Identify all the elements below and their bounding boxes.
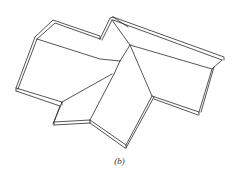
bottom-right-lip-inner bbox=[90, 123, 125, 148]
top-right-lip-inner bbox=[113, 20, 222, 60]
right-wall-inner bbox=[201, 67, 214, 112]
bottom-right-lip bbox=[90, 120, 126, 148]
left-bottom-lip bbox=[16, 88, 62, 105]
left-bottom-lip-inner bbox=[16, 91, 60, 106]
right-ridge-lower-inner bbox=[126, 97, 154, 148]
center-diagonal bbox=[114, 61, 120, 74]
center-apex-inner bbox=[102, 20, 112, 40]
center-apex-outer bbox=[100, 17, 113, 39]
bottom-lip bbox=[54, 120, 90, 123]
roof-structure-diagram bbox=[0, 0, 239, 176]
left-wall-outer bbox=[16, 37, 35, 91]
top-right-fold bbox=[130, 45, 222, 69]
bottom-lip-inner bbox=[54, 123, 90, 125]
center-valley bbox=[90, 74, 114, 120]
right-bottom-lip bbox=[152, 96, 199, 115]
center-ridge bbox=[130, 45, 152, 96]
left-wall-inner bbox=[18, 39, 37, 89]
right-bottom-lip-inner bbox=[154, 99, 198, 115]
figure-caption: (b) bbox=[0, 156, 239, 166]
right-wall-outer bbox=[199, 69, 212, 112]
left-step-inner bbox=[53, 106, 60, 124]
top-left-lip-outer bbox=[35, 20, 100, 39]
left-valley bbox=[62, 74, 112, 102]
top-left-fold bbox=[37, 39, 120, 61]
line-drawing bbox=[0, 0, 239, 176]
top-right-lip-outer bbox=[113, 17, 224, 60]
right-ridge-lower bbox=[126, 96, 152, 145]
